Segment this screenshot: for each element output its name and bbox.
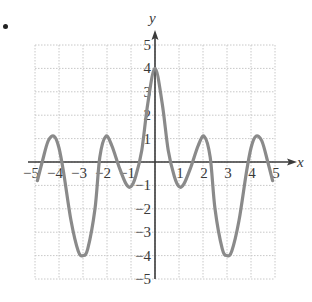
x-tick-label: 2 bbox=[200, 165, 208, 181]
axes bbox=[28, 30, 297, 279]
y-tick-label: −1 bbox=[135, 177, 151, 193]
y-axis-label: y bbox=[147, 10, 156, 26]
y-tick-label: 5 bbox=[144, 37, 152, 53]
x-axis-label: x bbox=[296, 154, 304, 170]
x-tick-label: −3 bbox=[71, 165, 87, 181]
x-tick-label: −4 bbox=[47, 165, 63, 181]
y-tick-label: 4 bbox=[144, 60, 152, 76]
x-tick-label: 3 bbox=[224, 165, 232, 181]
x-tick-label: 1 bbox=[176, 165, 184, 181]
y-tick-label: −5 bbox=[135, 271, 151, 287]
function-graph: −5−4−3−2−112345−5−4−3−2−112345 x y bbox=[0, 0, 312, 302]
x-tick-label: 4 bbox=[248, 165, 256, 181]
y-tick-label: −4 bbox=[135, 248, 151, 264]
y-tick-label: −2 bbox=[135, 201, 151, 217]
y-tick-label: −3 bbox=[135, 224, 151, 240]
